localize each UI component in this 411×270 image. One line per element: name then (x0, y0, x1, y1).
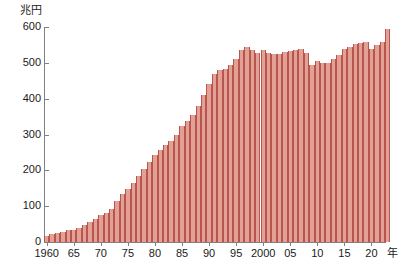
x-tick-1975 (128, 242, 129, 246)
x-tick-1995 (236, 242, 237, 246)
y-tick-label-200: 200 (5, 164, 41, 175)
x-tick-2005 (290, 242, 291, 246)
x-axis-line (44, 242, 386, 243)
y-tick-label-wrap: 0 (0, 242, 41, 243)
x-tick-label-1960: 1960 (34, 248, 58, 259)
x-tick-label-2000: 2000 (251, 248, 275, 259)
y-tick-label-0: 0 (5, 236, 41, 247)
x-tick-1965 (74, 242, 75, 246)
x-tick-2015 (344, 242, 345, 246)
x-axis-unit-label: 年 (387, 248, 398, 259)
chart-root: 兆円 0100200300400500600 19606570758085909… (0, 0, 411, 270)
x-tick-1970 (101, 242, 102, 246)
x-tick-label-1995: 95 (230, 248, 242, 259)
x-tick-1960 (47, 242, 48, 246)
y-tick-label-500: 500 (5, 57, 41, 68)
x-tick-1990 (209, 242, 210, 246)
x-tick-label-2020: 20 (365, 248, 377, 259)
plot-area (44, 27, 385, 242)
y-tick-label-wrap: 500 (0, 63, 41, 64)
x-tick-label-1990: 90 (203, 248, 215, 259)
x-tick-2000 (263, 242, 264, 246)
x-tick-label-1985: 85 (176, 248, 188, 259)
x-tick-label-1970: 70 (95, 248, 107, 259)
y-tick-label-wrap: 400 (0, 99, 41, 100)
x-tick-label-2005: 05 (284, 248, 296, 259)
y-tick-label-300: 300 (5, 129, 41, 140)
y-tick-label-wrap: 100 (0, 206, 41, 207)
y-tick-label-100: 100 (5, 200, 41, 211)
x-tick-1985 (182, 242, 183, 246)
x-tick-label-1980: 80 (149, 248, 161, 259)
y-tick-label-wrap: 200 (0, 170, 41, 171)
y-axis-unit-label: 兆円 (20, 1, 42, 17)
x-tick-label-1965: 65 (68, 248, 80, 259)
x-tick-2010 (317, 242, 318, 246)
bar (385, 29, 390, 242)
x-tick-1980 (155, 242, 156, 246)
y-tick-label-wrap: 300 (0, 135, 41, 136)
x-tick-2020 (371, 242, 372, 246)
x-tick-label-1975: 75 (122, 248, 134, 259)
y-tick-label-600: 600 (5, 21, 41, 32)
y-tick-label-400: 400 (5, 93, 41, 104)
x-tick-label-2010: 10 (311, 248, 323, 259)
y-tick-label-wrap: 600 (0, 27, 41, 28)
x-tick-label-2015: 15 (338, 248, 350, 259)
